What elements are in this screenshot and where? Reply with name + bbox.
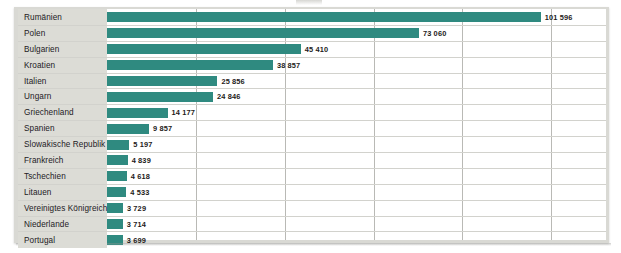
bar-track: 24 846 <box>107 89 606 104</box>
category-label: Vereinigtes Königreich <box>18 201 107 216</box>
category-label: Polen <box>18 26 107 41</box>
bar-row: Spanien9 857 <box>18 121 606 137</box>
bar-value-label: 3 714 <box>127 220 146 229</box>
bar-value-label: 73 060 <box>423 29 447 38</box>
bar-row: Rumänien101 596 <box>18 10 606 26</box>
bar <box>107 155 128 165</box>
bar <box>107 60 273 70</box>
bar-value-label: 4 533 <box>130 188 149 197</box>
bar-track: 9 857 <box>107 121 606 136</box>
bar-value-label: 25 856 <box>221 77 245 86</box>
bar <box>107 44 301 54</box>
bar-chart-figure: Rumänien101 596Polen73 060Bulgarien45 41… <box>0 0 621 253</box>
bar-track: 3 729 <box>107 201 606 216</box>
category-label: Bulgarien <box>18 42 107 57</box>
bar <box>107 92 213 102</box>
category-label: Niederlande <box>18 217 107 232</box>
bar-track: 3 714 <box>107 217 606 232</box>
bar-row: Niederlande3 714 <box>18 217 606 233</box>
category-label: Slowakische Republik <box>18 137 107 152</box>
category-label: Litauen <box>18 185 107 200</box>
bar-track: 73 060 <box>107 26 606 41</box>
bar-track: 101 596 <box>107 10 606 25</box>
bar-row: Bulgarien45 410 <box>18 42 606 58</box>
cropped-title-sliver <box>296 0 322 5</box>
category-label: Spanien <box>18 121 107 136</box>
category-label: Tschechien <box>18 169 107 184</box>
bar-row: Frankreich4 839 <box>18 153 606 169</box>
bar <box>107 76 217 86</box>
bar <box>107 28 419 38</box>
bar-value-label: 24 846 <box>217 92 241 101</box>
bar-row: Griechenland14 177 <box>18 105 606 121</box>
bar-value-label: 45 410 <box>305 45 329 54</box>
bar-row: Polen73 060 <box>18 26 606 42</box>
bar <box>107 124 149 134</box>
bar-track: 4 839 <box>107 153 606 168</box>
bar-value-label: 4 839 <box>132 156 151 165</box>
bar-track: 4 618 <box>107 169 606 184</box>
category-label: Griechenland <box>18 105 107 120</box>
bar-row: Italien25 856 <box>18 74 606 90</box>
bar-row: Kroatien38 857 <box>18 58 606 74</box>
category-label: Kroatien <box>18 58 107 73</box>
bar-row: Litauen4 533 <box>18 185 606 201</box>
bar <box>107 108 168 118</box>
bar-value-label: 9 857 <box>153 124 172 133</box>
category-label: Frankreich <box>18 153 107 168</box>
bar-track: 25 856 <box>107 74 606 89</box>
bar-row: Ungarn24 846 <box>18 89 606 105</box>
bar-track: 45 410 <box>107 42 606 57</box>
bar-value-label: 38 857 <box>277 61 301 70</box>
bar <box>107 203 123 213</box>
category-label: Rumänien <box>18 10 107 25</box>
category-label: Portugal <box>18 232 107 248</box>
bar-row: Slowakische Republik5 197 <box>18 137 606 153</box>
bar <box>107 12 541 22</box>
category-label: Italien <box>18 74 107 89</box>
bar-value-label: 5 197 <box>133 140 152 149</box>
bar <box>107 171 127 181</box>
bar <box>107 219 123 229</box>
bar-track: 4 533 <box>107 185 606 200</box>
bar <box>107 140 129 150</box>
bar-track: 5 197 <box>107 137 606 152</box>
bar-row: Vereinigtes Königreich3 729 <box>18 201 606 217</box>
category-label: Ungarn <box>18 89 107 104</box>
bar-track: 38 857 <box>107 58 606 73</box>
bar-row: Tschechien4 618 <box>18 169 606 185</box>
bar-value-label: 101 596 <box>545 13 573 22</box>
bar <box>107 187 126 197</box>
bar-track: 14 177 <box>107 105 606 120</box>
bar-rows: Rumänien101 596Polen73 060Bulgarien45 41… <box>18 10 606 248</box>
bar-value-label: 14 177 <box>172 108 196 117</box>
bar-value-label: 4 618 <box>131 172 150 181</box>
bar-value-label: 3 729 <box>127 204 146 213</box>
